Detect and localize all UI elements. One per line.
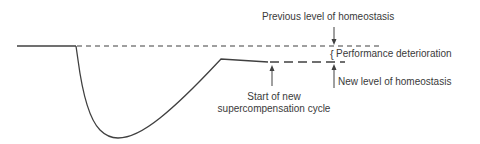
- diagram-graphics: [0, 0, 480, 144]
- arrow-up-icon: [270, 65, 275, 86]
- start-new-cycle-label: Start of new supercompensation cycle: [210, 91, 338, 115]
- performance-deterioration-label: Performance deterioration: [336, 48, 452, 60]
- start-new-cycle-line1: Start of new: [210, 91, 338, 103]
- previous-level-label: Previous level of homeostasis: [262, 11, 394, 23]
- arrow-up-icon: [332, 64, 337, 88]
- brace-icon: {: [330, 48, 334, 60]
- new-level-label: New level of homeostasis: [338, 76, 451, 88]
- start-new-cycle-line2: supercompensation cycle: [210, 103, 338, 115]
- arrow-down-icon: [332, 27, 337, 45]
- supercompensation-diagram: Previous level of homeostasis { Performa…: [0, 0, 480, 144]
